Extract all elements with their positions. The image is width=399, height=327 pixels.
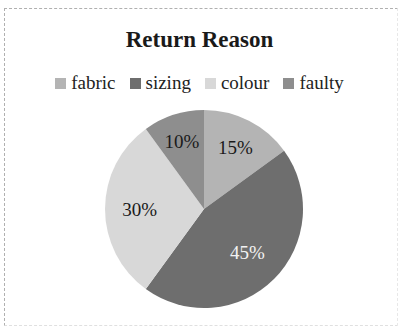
pie-chart: 15%45%30%10% [0,0,399,327]
data-label-faulty: 10% [165,131,200,152]
data-label-sizing: 45% [230,242,265,263]
data-label-fabric: 15% [218,137,253,158]
data-label-colour: 30% [122,199,157,220]
